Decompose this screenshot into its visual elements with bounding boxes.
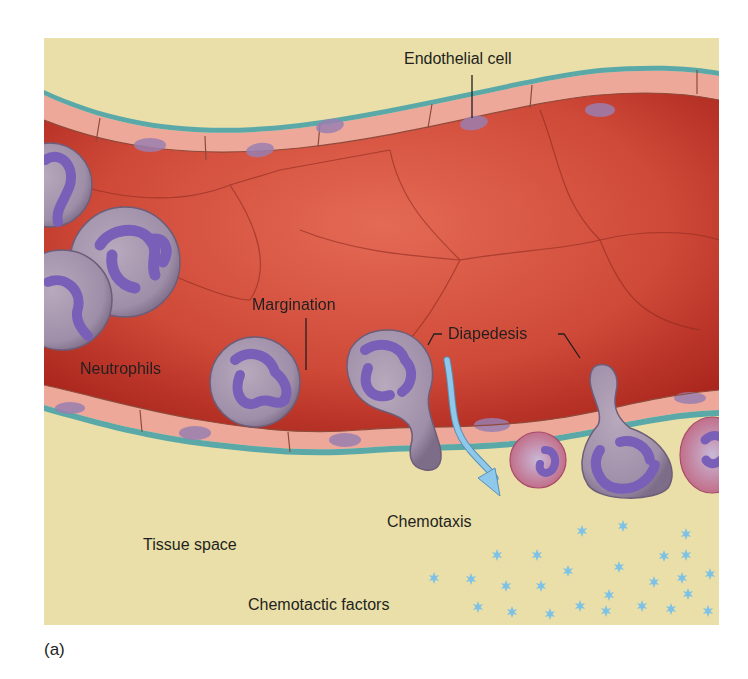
chemotactic-factors-label: Chemotactic factors — [248, 596, 389, 614]
neutrophils-label: Neutrophils — [80, 360, 161, 378]
margination-label: Margination — [252, 296, 336, 314]
granulocyte-tissue — [680, 417, 744, 493]
neutrophil-extravasation-figure: Endothelial cell Margination Diapedesis … — [0, 0, 748, 679]
chemotaxis-label: Chemotaxis — [387, 513, 471, 531]
endothelial-cell-label: Endothelial cell — [404, 50, 512, 68]
neutrophil-cell — [12, 250, 112, 350]
illustration-panel — [8, 38, 744, 625]
diapedesis-label: Diapedesis — [448, 325, 527, 343]
tissue-space-label: Tissue space — [143, 536, 237, 554]
panel-label: (a) — [44, 640, 65, 660]
diagram-canvas — [0, 0, 748, 679]
